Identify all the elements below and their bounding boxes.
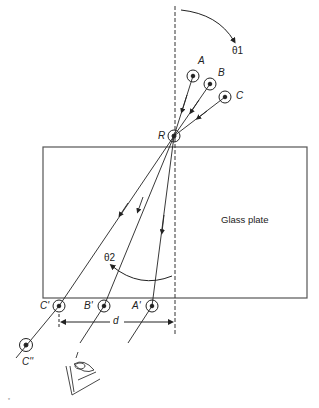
- label-C-prime: C': [40, 301, 49, 311]
- glass-plate-label: Glass plate: [221, 215, 269, 225]
- label-C-double-prime: C'': [22, 357, 33, 367]
- label-B: B: [218, 68, 225, 78]
- diagram-canvas: *: [0, 0, 319, 408]
- pins: [20, 70, 232, 352]
- theta2-arc: [112, 266, 172, 281]
- incident-rays: [174, 76, 225, 136]
- label-A-prime: A': [132, 301, 141, 311]
- label-R: R: [158, 131, 165, 141]
- d-label: d: [113, 316, 119, 326]
- refracted-rays: [16, 136, 174, 358]
- theta1-label: θ1: [232, 46, 243, 56]
- theta2-label: θ2: [104, 253, 115, 263]
- eye-icon: [66, 352, 100, 395]
- label-C: C: [236, 91, 243, 101]
- label-A: A: [198, 56, 205, 66]
- label-B-prime: B': [84, 301, 93, 311]
- theta1-arc: [181, 10, 234, 41]
- svg-text:*: *: [8, 397, 10, 403]
